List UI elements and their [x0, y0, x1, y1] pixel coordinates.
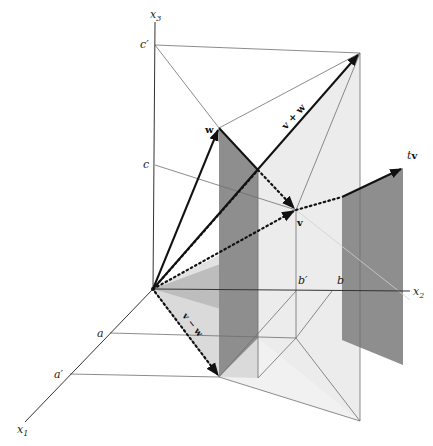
x3-axis — [153, 22, 155, 289]
b-prime-label: b′ — [298, 274, 308, 287]
x1-label: x1 — [17, 423, 28, 438]
a-label: a — [97, 327, 104, 340]
vector-diagram: x3 x2 x1 c′ c a a′ b′ b w v v + w v − w … — [0, 0, 433, 446]
c-prime-label: c′ — [140, 38, 149, 51]
v-label: v — [296, 217, 304, 228]
w-label: w — [204, 124, 214, 135]
x3-label: x3 — [150, 8, 161, 23]
a-prime-label: a′ — [54, 368, 64, 381]
x1-axis — [25, 289, 153, 422]
b-label: b — [337, 274, 344, 287]
x2-label: x2 — [413, 285, 424, 300]
c-label: c — [143, 158, 149, 171]
tv-label: tv — [407, 149, 418, 162]
dark-panel-tv — [342, 168, 403, 365]
origin-point — [151, 287, 155, 291]
